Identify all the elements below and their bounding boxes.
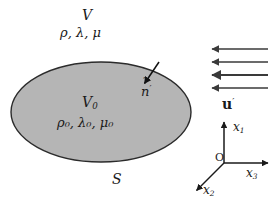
- physics-diagram-figure: V ρ, λ, μ V0 ρ₀, λ₀, μ₀ ˜n′ S u′ x1 x2 x…: [0, 0, 274, 206]
- axis-label-x3: x3: [246, 167, 258, 180]
- incident-field-prime: ′: [232, 96, 234, 107]
- inclusion-volume-label: V0: [82, 95, 98, 111]
- origin-label: O: [215, 152, 224, 163]
- incident-field-symbol: u: [222, 96, 232, 112]
- axis-label-x1: x1: [233, 121, 245, 134]
- axis-x1-subscript: 1: [240, 126, 245, 135]
- axis-x2-symbol: x: [203, 183, 210, 197]
- axis-label-x2: x2: [203, 184, 215, 197]
- axis-x3-subscript: 3: [253, 172, 258, 181]
- normal-vector-prime: ′: [149, 84, 151, 94]
- axis-x2-subscript: 2: [210, 189, 215, 198]
- surface-label: S: [112, 172, 122, 186]
- normal-vector-symbol: ˜n: [141, 85, 149, 98]
- exterior-properties-label: ρ, λ, μ: [60, 26, 101, 39]
- axis-x1-symbol: x: [233, 120, 240, 134]
- normal-vector-label: ˜n′: [141, 85, 151, 98]
- inclusion-properties-label: ρ₀, λ₀, μ₀: [57, 116, 114, 129]
- inclusion-ellipse: [11, 62, 191, 162]
- incident-field-label: u′: [222, 97, 234, 111]
- exterior-volume-label: V: [82, 8, 92, 22]
- axis-x3-symbol: x: [246, 166, 253, 180]
- inclusion-volume-symbol: V: [82, 94, 92, 110]
- tilde-accent-icon: ˜: [142, 77, 148, 88]
- inclusion-volume-subscript: 0: [92, 101, 98, 111]
